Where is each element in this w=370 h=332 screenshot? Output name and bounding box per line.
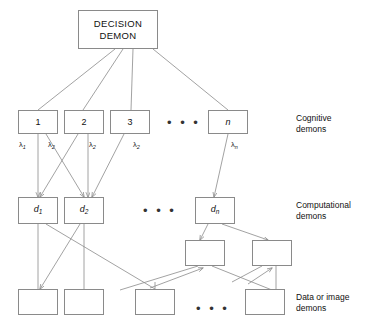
diagram-canvas: DECISION DEMON 1 2 3 n • • • Cognitive d…	[0, 0, 370, 332]
intermediate-box-left[interactable]	[185, 240, 225, 266]
data-demon-row-label: Data or image demons	[296, 292, 349, 314]
cognitive-demon-n[interactable]: n	[208, 110, 248, 134]
computational-demon-d1[interactable]: d1	[18, 197, 58, 224]
computational-demon-dn[interactable]: dn	[195, 197, 235, 224]
decision-demon-label: DECISION DEMON	[94, 18, 142, 42]
cognitive-demon-3-label: 3	[127, 117, 132, 127]
data-demon-row-ellipsis: • • •	[196, 304, 229, 314]
cognitive-demon-3[interactable]: 3	[110, 110, 150, 134]
connection-lines	[0, 0, 370, 332]
cognitive-row-ellipsis: • • •	[167, 118, 200, 128]
data-demon-3[interactable]	[135, 289, 175, 315]
cognitive-demon-n-label: n	[225, 117, 230, 127]
computational-demon-d1-label: d1	[34, 204, 43, 217]
cognitive-demon-2-label: 2	[81, 117, 86, 127]
weight-lambda-3: λ2	[89, 140, 96, 150]
weight-lambda-1: λ1	[19, 140, 26, 150]
weight-lambda-n: λn	[231, 140, 238, 150]
cognitive-row-label: Cognitive demons	[296, 113, 331, 135]
weight-lambda-2: λ2	[48, 140, 55, 150]
data-demon-2[interactable]	[64, 289, 104, 315]
cognitive-demon-1[interactable]: 1	[18, 110, 58, 134]
decision-demon-box[interactable]: DECISION DEMON	[78, 10, 158, 49]
computational-demon-d2[interactable]: d2	[64, 197, 104, 224]
data-demon-1[interactable]	[18, 289, 58, 315]
computational-row-ellipsis: • • •	[143, 206, 176, 216]
computational-demon-d2-label: d2	[80, 204, 89, 217]
cognitive-demon-2[interactable]: 2	[64, 110, 104, 134]
computational-demon-dn-label: dn	[211, 204, 220, 217]
weight-lambda-4: λ2	[133, 140, 140, 150]
computational-row-label: Computational demons	[296, 200, 351, 222]
data-demon-n[interactable]	[245, 289, 285, 315]
cognitive-demon-1-label: 1	[35, 117, 40, 127]
intermediate-box-right[interactable]	[252, 240, 292, 266]
